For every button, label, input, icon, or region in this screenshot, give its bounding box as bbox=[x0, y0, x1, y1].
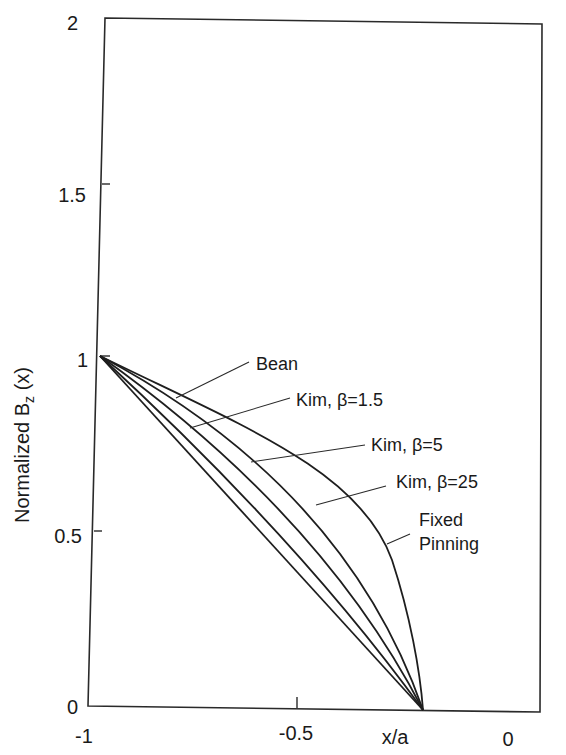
label-kim-beta-25: Kim, β=25 bbox=[396, 472, 478, 492]
y-tick-label: 0 bbox=[67, 696, 78, 718]
x-tick-label: -1 bbox=[75, 725, 93, 747]
label-kim-beta-1-5: Kim, β=1.5 bbox=[296, 390, 383, 410]
plot-frame bbox=[88, 18, 542, 712]
label-fixed: Fixed bbox=[419, 510, 463, 530]
x-tick-label: -0.5 bbox=[279, 722, 313, 744]
label-kim-beta-5: Kim, β=5 bbox=[371, 435, 443, 455]
label-pinning: Pinning bbox=[419, 534, 479, 554]
y-tick-label: 2 bbox=[67, 12, 78, 34]
y-tick-label: 1.5 bbox=[58, 184, 86, 206]
x-axis-title: x/a bbox=[382, 726, 410, 748]
label-bean: Bean bbox=[256, 354, 298, 374]
y-axis-title: Normalized Bz (x) bbox=[11, 367, 37, 523]
y-tick-label: 1 bbox=[77, 349, 88, 371]
x-tick-label: 0 bbox=[502, 728, 513, 750]
chart: 2 1.5 1 0.5 0 -1 -0.5 0 x/a Normalized B… bbox=[0, 0, 566, 755]
y-tick-label: 0.5 bbox=[54, 525, 82, 547]
